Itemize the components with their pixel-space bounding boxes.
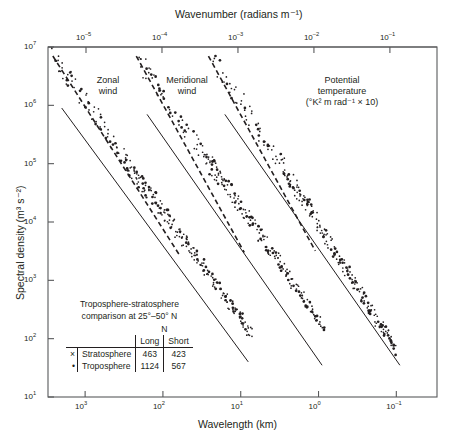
y-tick-label-0: 107	[24, 42, 36, 51]
legend-col-long: Long	[136, 335, 164, 348]
y-tick-label-3: 104	[24, 217, 36, 226]
legend-spacer	[66, 323, 78, 335]
legend-short-troposphere: 567	[164, 360, 193, 372]
annotation-meridional-wind: Meridional wind	[152, 75, 222, 97]
legend-title-line-2: comparison at 25°–50° N	[66, 311, 193, 323]
legend-short-stratosphere: 423	[164, 348, 193, 361]
legend-n-header-row: N	[66, 323, 193, 335]
figure-canvas: Wavenumber (radians m⁻¹) Wavelength (km)…	[0, 0, 455, 448]
y-tick-label-5: 102	[24, 334, 36, 343]
annotation-line-2: wind	[78, 86, 138, 97]
top-tick-label-1: 10–4	[152, 33, 167, 42]
legend-spacer-label	[78, 323, 136, 335]
legend-col-short: Short	[164, 335, 193, 348]
legend-long-stratosphere: 463	[136, 348, 164, 361]
legend-spacer-label	[78, 335, 136, 348]
annotation-potential-temperature: Potential temperature (°K² m rad⁻¹ × 10)	[287, 75, 397, 108]
y-tick-label-6: 101	[24, 392, 36, 401]
x-tick-label-3: 100	[309, 402, 321, 411]
legend-n-header: N	[136, 323, 193, 335]
legend-row-troposphere: • Troposphere 1124 567	[66, 360, 193, 372]
annotation-line-1: Zonal	[78, 75, 138, 86]
x-tick-label-1: 102	[153, 402, 165, 411]
y-tick-label-2: 105	[24, 159, 36, 168]
x-tick-label-0: 103	[75, 402, 87, 411]
legend-spacer	[66, 335, 78, 348]
top-tick-label-4: 10–1	[380, 33, 395, 42]
annotation-line-1: Potential	[287, 75, 397, 86]
legend-marker-stratosphere: ×	[66, 348, 78, 361]
top-tick-label-2: 10–3	[228, 33, 243, 42]
legend-title: Troposphere-stratosphere comparison at 2…	[66, 299, 193, 322]
x-tick-label-2: 101	[231, 402, 243, 411]
y-tick-label-4: 103	[24, 275, 36, 284]
legend-data-table: N Long Short × Stratosphere 463 423 • Tr…	[66, 323, 193, 372]
y-tick-label-1: 106	[24, 100, 36, 109]
annotation-zonal-wind: Zonal wind	[78, 75, 138, 97]
annotation-line-1: Meridional	[152, 75, 222, 86]
legend-label-stratosphere: Stratosphere	[78, 348, 136, 361]
annotation-line-2: wind	[152, 86, 222, 97]
annotation-line-3: (°K² m rad⁻¹ × 10)	[287, 97, 397, 108]
legend-column-header-row: Long Short	[66, 335, 193, 348]
top-tick-label-3: 10–2	[304, 33, 319, 42]
x-tick-label-4: 10–1	[386, 402, 401, 411]
legend-label-troposphere: Troposphere	[78, 360, 136, 372]
legend-long-troposphere: 1124	[136, 360, 164, 372]
annotation-line-2: temperature	[287, 86, 397, 97]
legend-row-stratosphere: × Stratosphere 463 423	[66, 348, 193, 361]
legend-marker-troposphere: •	[66, 360, 78, 372]
legend-title-line-1: Troposphere-stratosphere	[66, 299, 193, 311]
spectral-density-plot	[0, 0, 455, 448]
legend-table: Troposphere-stratosphere comparison at 2…	[66, 299, 193, 372]
top-tick-label-0: 10–5	[76, 33, 91, 42]
